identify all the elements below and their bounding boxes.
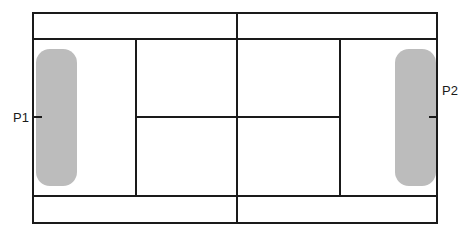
top-sideline-singles: [32, 38, 438, 40]
p1-tick: [32, 116, 42, 118]
p2-tick: [429, 116, 438, 118]
p1-label: P1: [13, 111, 29, 124]
net-line: [236, 12, 238, 224]
court-outer-boundary: [32, 12, 438, 224]
p2-label: P2: [442, 84, 458, 97]
bottom-sideline-singles: [32, 195, 438, 197]
p1-zone: [36, 49, 77, 186]
center-service-line: [135, 116, 341, 118]
